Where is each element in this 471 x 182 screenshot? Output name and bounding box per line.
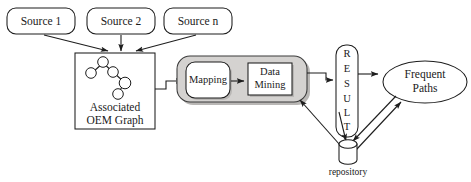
process-container[interactable]: Mapping Data Mining bbox=[177, 56, 310, 105]
associated-oem-graph-box[interactable]: Associated OEM Graph bbox=[75, 53, 155, 129]
arrow-output-to-repository bbox=[353, 96, 396, 141]
repository-label: repository bbox=[329, 167, 368, 177]
source-box-1[interactable]: Source 1 bbox=[7, 8, 75, 34]
diagram-canvas: Source 1 Source 2 Source n bbox=[0, 0, 471, 182]
mapping-node[interactable]: Mapping bbox=[186, 62, 232, 100]
repository-node[interactable]: repository bbox=[329, 140, 368, 177]
result-letter-5: L bbox=[344, 107, 350, 118]
source-box-1-label: Source 1 bbox=[21, 15, 62, 27]
result-letter-4: U bbox=[343, 93, 351, 104]
frequent-paths-label-line2: Paths bbox=[413, 82, 438, 94]
arrow-repository-to-process bbox=[300, 100, 340, 145]
source-box-n[interactable]: Source n bbox=[164, 8, 232, 34]
source-box-n-label: Source n bbox=[178, 15, 219, 27]
repository-cylinder-top bbox=[339, 140, 357, 148]
graph-box-label-line1: Associated bbox=[90, 101, 141, 113]
data-mining-label-line2: Mining bbox=[255, 79, 287, 90]
result-letter-1: R bbox=[343, 48, 350, 59]
arrow-sourcen-to-graph bbox=[136, 35, 196, 51]
data-mining-label-line1: Data bbox=[260, 66, 280, 77]
arrow-repository-to-output bbox=[356, 102, 401, 150]
mapping-node-label: Mapping bbox=[189, 74, 228, 85]
data-mining-node[interactable]: Data Mining bbox=[248, 63, 294, 97]
arrow-process-to-result bbox=[307, 73, 333, 80]
arrow-source1-to-graph bbox=[44, 35, 108, 51]
graph-box-label-line2: OEM Graph bbox=[86, 114, 143, 127]
result-letter-6: T bbox=[344, 121, 351, 132]
result-letter-2: E bbox=[344, 63, 350, 74]
source-box-2[interactable]: Source 2 bbox=[87, 8, 155, 34]
source-box-2-label: Source 2 bbox=[101, 15, 142, 27]
frequent-paths-label-line1: Frequent bbox=[405, 68, 447, 81]
diagram-svg: Source 1 Source 2 Source n bbox=[0, 0, 471, 182]
result-node[interactable]: R E S U L T bbox=[336, 45, 358, 137]
result-letter-3: S bbox=[344, 78, 350, 89]
